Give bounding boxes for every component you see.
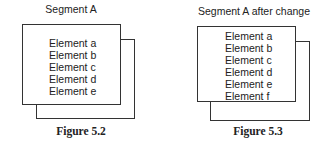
element-item: Element e <box>225 78 272 90</box>
element-item: Element c <box>225 54 272 66</box>
element-item: Element b <box>225 42 272 54</box>
element-item: Element d <box>225 66 272 78</box>
element-list: Element a Element b Element c Element d … <box>225 30 272 102</box>
element-item: Element b <box>49 49 96 61</box>
element-item: Element f <box>225 90 272 102</box>
element-item: Element c <box>49 61 96 73</box>
segment-title: Segment A <box>20 3 122 15</box>
figure-caption: Figure 5.3 <box>212 125 304 137</box>
element-list: Element a Element b Element c Element d … <box>49 37 96 97</box>
segment-title: Segment A after change <box>184 5 324 17</box>
element-item: Element a <box>225 30 272 42</box>
element-item: Element d <box>49 73 96 85</box>
element-item: Element a <box>49 37 96 49</box>
element-item: Element e <box>49 85 96 97</box>
figure-caption: Figure 5.2 <box>35 125 127 137</box>
